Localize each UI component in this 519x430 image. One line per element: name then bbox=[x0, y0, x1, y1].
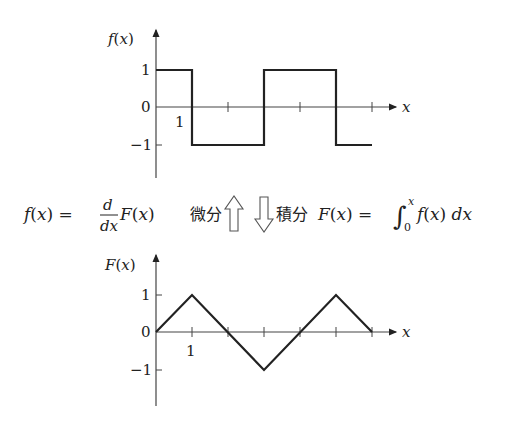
triangle-wave-plot: F(x) 1 0 −1 1 x bbox=[0, 0, 519, 430]
svg-text:0: 0 bbox=[141, 323, 151, 341]
svg-text:x: x bbox=[402, 323, 411, 341]
svg-text:1: 1 bbox=[141, 286, 151, 304]
svg-text:−1: −1 bbox=[130, 361, 152, 379]
svg-text:1: 1 bbox=[186, 342, 196, 360]
svg-text:F(x): F(x) bbox=[104, 256, 136, 274]
